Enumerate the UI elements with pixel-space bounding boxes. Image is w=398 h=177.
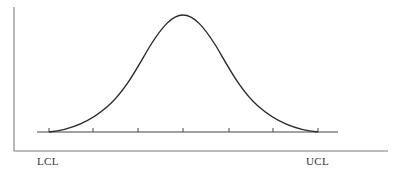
normal-distribution-curve	[49, 15, 318, 132]
bell-curve-diagram	[0, 0, 398, 177]
lcl-label: LCL	[37, 155, 59, 167]
ucl-label: UCL	[306, 155, 329, 167]
